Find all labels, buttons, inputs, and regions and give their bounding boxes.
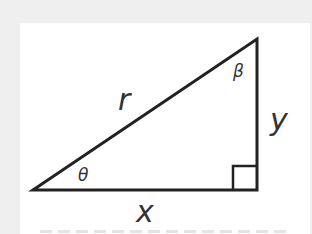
angle-theta-label: θ: [78, 165, 89, 185]
angle-beta-label: β: [232, 61, 244, 81]
triangle-shape: [33, 39, 257, 190]
opposite-side-label: y: [269, 102, 289, 137]
hypotenuse-label: r: [118, 82, 132, 117]
adjacent-side-label: x: [135, 194, 154, 229]
right-angle-marker: [233, 166, 257, 190]
cropped-caption-artifact: [40, 230, 290, 233]
right-triangle-diagram: r y x θ β: [0, 0, 312, 234]
